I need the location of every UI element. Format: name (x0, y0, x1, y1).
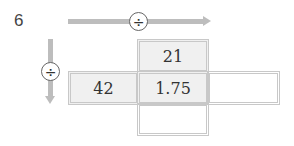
divide-icon: ÷ (129, 12, 148, 31)
problem-number: 6 (14, 11, 23, 31)
arrow-right-icon (203, 16, 211, 26)
cell-middle-right-answer[interactable] (207, 71, 280, 105)
arrow-down-icon (45, 96, 55, 104)
cell-top-middle: 21 (137, 39, 209, 73)
cell-bottom-middle-answer[interactable] (137, 103, 209, 136)
division-puzzle: 6 ÷ ÷ 21 42 1.75 (0, 0, 294, 146)
cell-middle-left: 42 (68, 71, 139, 105)
divide-icon: ÷ (41, 62, 60, 81)
cell-center: 1.75 (137, 71, 209, 105)
